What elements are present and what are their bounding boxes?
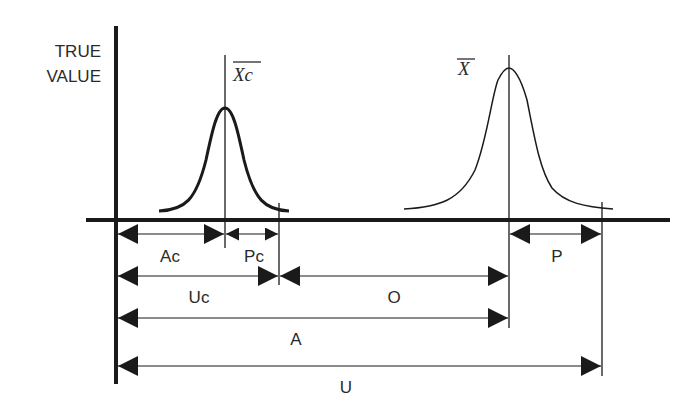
A-label: A — [290, 330, 302, 349]
Pc-label: Pc — [244, 247, 264, 266]
P-label: P — [551, 247, 562, 266]
measurement-mean-label: X — [457, 58, 471, 79]
calibration-curve — [159, 108, 289, 211]
O-label: O — [387, 288, 400, 307]
y-axis-label-line1: TRUE — [55, 42, 101, 61]
U-label: U — [340, 378, 352, 397]
Ac-label: Ac — [160, 247, 180, 266]
calibration-mean-label: Xc — [232, 64, 254, 85]
y-axis-label-line2: VALUE — [47, 67, 102, 86]
accuracy-precision-diagram: TRUE VALUE Xc X Ac Pc P Uc O A U — [0, 0, 700, 408]
Uc-label: Uc — [189, 288, 210, 307]
